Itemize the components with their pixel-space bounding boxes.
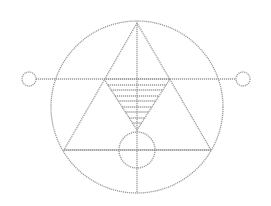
right-side-circle xyxy=(236,72,250,86)
left-side-circle xyxy=(22,72,36,86)
geometric-symbol-diagram xyxy=(0,0,271,206)
